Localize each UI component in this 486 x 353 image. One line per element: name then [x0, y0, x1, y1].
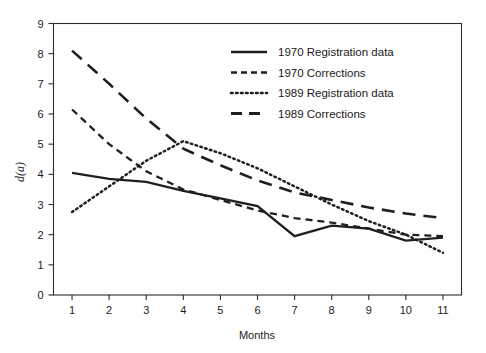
legend-label: 1989 Registration data: [278, 87, 394, 99]
chart-legend: 1970 Registration data1970 Corrections19…: [231, 46, 394, 120]
y-tick-label: 0: [37, 289, 43, 301]
legend-label: 1970 Registration data: [278, 46, 394, 58]
series-line-1989-corrections: [72, 51, 443, 218]
y-axis-title: d(a): [13, 162, 27, 182]
x-tick-label: 4: [180, 304, 186, 316]
y-axis: 0123456789: [37, 18, 53, 302]
x-tick-label: 1: [69, 304, 75, 316]
series-line-1970-corrections: [72, 109, 443, 236]
x-tick-label: 5: [217, 304, 223, 316]
x-axis-title: Months: [239, 329, 276, 341]
x-tick-label: 11: [437, 304, 448, 316]
y-tick-label: 4: [37, 168, 43, 180]
y-tick-label: 9: [37, 18, 43, 30]
legend-label: 1970 Corrections: [278, 67, 366, 79]
x-tick-label: 7: [292, 304, 298, 316]
chart-figure: 0123456789 1234567891011 Months d(a) 197…: [0, 0, 486, 353]
legend-label: 1989 Corrections: [278, 108, 366, 120]
y-tick-label: 3: [37, 199, 43, 211]
y-tick-label: 1: [37, 259, 43, 271]
y-tick-label: 8: [37, 48, 43, 60]
y-tick-label: 7: [37, 78, 43, 90]
x-tick-label: 3: [143, 304, 149, 316]
x-tick-label: 9: [366, 304, 372, 316]
line-chart-canvas: 0123456789 1234567891011 Months d(a) 197…: [0, 0, 486, 353]
x-tick-label: 2: [106, 304, 112, 316]
x-tick-label: 8: [329, 304, 335, 316]
plot-frame: [54, 24, 462, 296]
x-tick-label: 6: [254, 304, 260, 316]
x-axis: 1234567891011: [69, 295, 449, 316]
y-tick-label: 6: [37, 108, 43, 120]
x-tick-label: 10: [400, 304, 412, 316]
series-group: [72, 51, 443, 253]
y-tick-label: 5: [37, 138, 43, 150]
y-tick-label: 2: [37, 229, 43, 241]
series-line-1970-registration-data: [72, 173, 443, 241]
